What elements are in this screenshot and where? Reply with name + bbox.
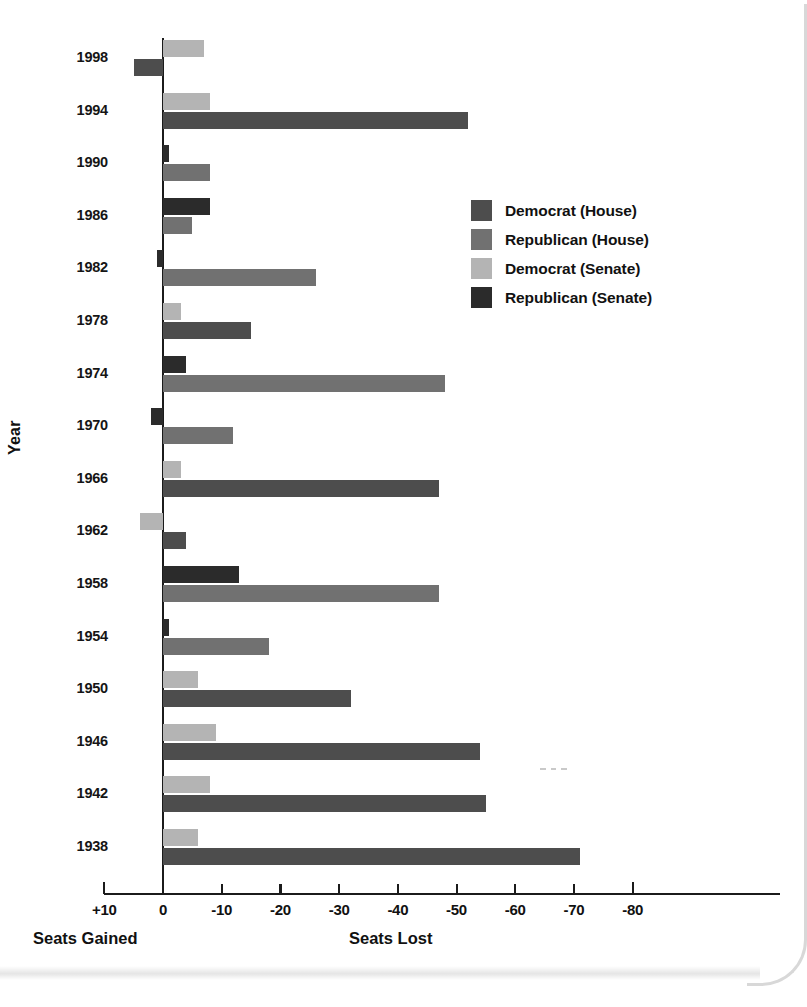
x-axis-tick [103,882,105,894]
legend-item-label: Republican (House) [505,231,649,249]
bar-1978-upper [163,303,181,320]
bar-1946-lower [163,743,480,760]
year-tick-label: 1978 [38,312,108,328]
year-tick-label: 1954 [38,628,108,644]
x-axis-tick-label: -10 [192,901,252,918]
bar-1938-lower [163,848,580,865]
scan-artifact [551,768,556,770]
x-axis-tick [456,884,458,894]
bar-1990-lower [163,164,210,181]
bar-1966-lower [163,480,439,497]
x-axis-tick-label: -20 [250,901,310,918]
bar-1974-upper [163,356,186,373]
bar-1962-lower [163,532,186,549]
bar-1938-upper [163,829,198,846]
bar-1986-lower [163,217,192,234]
x-axis-tick [279,884,281,894]
bar-1978-lower [163,322,251,339]
year-tick-label: 1990 [38,154,108,170]
x-axis-line [104,893,780,895]
x-axis-tick-label: -70 [544,901,604,918]
legend-item-1: Republican (House) [471,225,652,254]
year-tick-label: 1962 [38,522,108,538]
x-axis-tick [573,884,575,894]
bar-1970-upper [151,408,163,425]
legend-item-label: Democrat (House) [505,202,637,220]
legend-item-2: Democrat (Senate) [471,254,652,283]
bar-1994-upper [163,93,210,110]
seats-lost-caption: Seats Lost [349,929,432,948]
bar-1974-lower [163,375,445,392]
scanned-page-sheet: Year 19981994199019861982197819741970196… [0,0,807,1007]
x-axis-tick-label: -60 [485,901,545,918]
bar-1966-upper [163,461,181,478]
legend-swatch-icon [471,229,492,250]
year-tick-label: 1970 [38,417,108,433]
bar-1954-upper [163,619,169,636]
year-tick-label: 1958 [38,575,108,591]
bar-1942-upper [163,776,210,793]
chart-legend: Democrat (House)Republican (House)Democr… [471,196,652,312]
bar-1946-upper [163,724,216,741]
legend-item-label: Democrat (Senate) [505,260,640,278]
year-tick-label: 1998 [38,49,108,65]
bar-1958-lower [163,585,439,602]
year-tick-label: 1974 [38,365,108,381]
plot-area: 1998199419901986198219781974197019661962… [0,0,807,1007]
scan-artifact [540,768,546,770]
year-tick-label: 1994 [38,102,108,118]
year-tick-label: 1938 [38,838,108,854]
x-axis-tick [632,882,634,894]
x-axis-tick-label: 0 [133,901,193,918]
x-axis-tick-label: -30 [309,901,369,918]
bar-1970-lower [163,427,233,444]
legend-item-0: Democrat (House) [471,196,652,225]
bar-1950-upper [163,671,198,688]
legend-item-label: Republican (Senate) [505,289,652,307]
legend-swatch-icon [471,287,492,308]
legend-swatch-icon [471,200,492,221]
midterm-seat-change-bar-chart: Year 19981994199019861982197819741970196… [0,0,807,1007]
year-tick-label: 1942 [38,785,108,801]
x-axis-tick [514,884,516,894]
year-tick-label: 1966 [38,470,108,486]
x-axis-tick-label: -50 [427,901,487,918]
scan-artifact [561,768,567,770]
x-axis-tick-label: -80 [603,901,663,918]
bar-1962-upper [140,513,163,530]
bar-1990-upper [163,145,169,162]
bar-1942-lower [163,795,486,812]
bar-1998-lower [134,59,163,76]
bar-1998-upper [163,40,204,57]
bar-1958-upper [163,566,239,583]
bar-1950-lower [163,690,351,707]
x-axis-tick-label: -40 [368,901,428,918]
bar-1982-lower [163,269,316,286]
legend-swatch-icon [471,258,492,279]
bar-1994-lower [163,112,468,129]
bar-1986-upper [163,198,210,215]
year-tick-label: 1950 [38,680,108,696]
bar-1954-lower [163,638,269,655]
legend-item-3: Republican (Senate) [471,283,652,312]
x-axis-tick [162,884,164,894]
x-axis-tick [221,884,223,894]
year-tick-label: 1986 [38,207,108,223]
seats-gained-caption: Seats Gained [33,929,138,948]
year-tick-label: 1982 [38,259,108,275]
x-axis-tick [338,884,340,894]
x-axis-tick [397,884,399,894]
x-axis-tick-label: +10 [74,901,134,918]
bar-1982-upper [157,250,163,267]
year-tick-label: 1946 [38,733,108,749]
